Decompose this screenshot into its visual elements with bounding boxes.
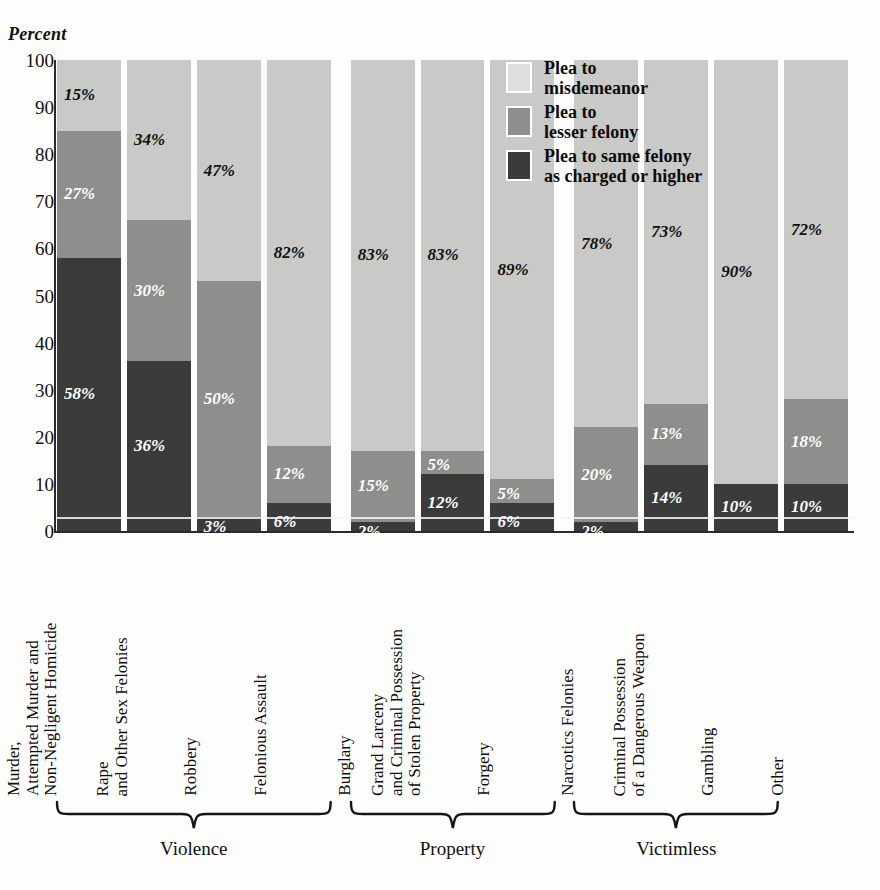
- legend-swatch-mis-icon: [506, 62, 532, 93]
- bar-2[interactable]: 47%50%3%: [197, 60, 261, 531]
- legend-label-les: Plea tolesser felony: [544, 102, 638, 142]
- category-label-2: Robbery: [182, 737, 201, 796]
- y-tick-100: 100: [26, 51, 55, 70]
- category-label-7: Narcotics Felonies: [560, 669, 579, 796]
- y-tick-90: 90: [35, 98, 54, 117]
- y-tick-20: 20: [35, 427, 54, 446]
- value-label-mis-5: 83%: [428, 246, 459, 263]
- segment-same-7: 2%: [574, 522, 638, 531]
- segment-same-2: 3%: [197, 517, 261, 531]
- y-tick-10: 10: [35, 474, 54, 493]
- brace-property: [349, 800, 557, 834]
- legend: Plea tomisdemeanorPlea tolesser felonyPl…: [506, 60, 756, 192]
- value-label-les-10: 18%: [791, 433, 822, 450]
- segment-les-7: 20%: [574, 427, 638, 521]
- y-tick-70: 70: [35, 192, 54, 211]
- value-label-les-4: 15%: [358, 477, 389, 494]
- legend-swatch-same-icon: [506, 150, 532, 181]
- brace-victimless: [572, 800, 780, 834]
- group-braces: ViolencePropertyVictimless: [57, 800, 854, 890]
- segment-les-5: 5%: [421, 451, 485, 475]
- segment-les-4: 15%: [351, 451, 415, 522]
- value-label-mis-9: 90%: [721, 263, 752, 280]
- value-label-same-5: 12%: [428, 494, 459, 511]
- legend-item-les[interactable]: Plea tolesser felony: [506, 104, 756, 148]
- value-label-same-10: 10%: [791, 498, 822, 515]
- segment-mis-1: 34%: [127, 60, 191, 220]
- value-label-mis-4: 83%: [358, 246, 389, 263]
- segment-les-0: 27%: [57, 131, 121, 258]
- y-tick-30: 30: [35, 380, 54, 399]
- y-tick-0: 0: [45, 522, 55, 541]
- value-label-mis-1: 34%: [134, 131, 165, 148]
- segment-mis-5: 83%: [421, 60, 485, 451]
- segment-same-9: 10%: [714, 484, 778, 531]
- y-tick-80: 80: [35, 145, 54, 164]
- value-label-les-7: 20%: [581, 466, 612, 483]
- value-label-mis-8: 73%: [651, 223, 682, 240]
- segment-mis-0: 15%: [57, 60, 121, 131]
- value-label-mis-7: 78%: [581, 235, 612, 252]
- y-tick-60: 60: [35, 239, 54, 258]
- legend-label-mis: Plea tomisdemeanor: [544, 58, 648, 98]
- bar-1[interactable]: 34%30%36%: [127, 60, 191, 531]
- segment-les-2: 50%: [197, 281, 261, 517]
- bar-3[interactable]: 82%12%6%: [267, 60, 331, 531]
- legend-item-mis[interactable]: Plea tomisdemeanor: [506, 60, 756, 104]
- category-label-5: Grand Larcenyand Criminal Possessionof S…: [368, 629, 424, 796]
- segment-same-10: 10%: [784, 484, 848, 531]
- category-label-3: Felonious Assault: [252, 675, 271, 796]
- value-label-mis-6: 89%: [497, 261, 528, 278]
- value-label-same-9: 10%: [721, 498, 752, 515]
- segment-mis-4: 83%: [351, 60, 415, 451]
- category-label-10: Other: [769, 757, 788, 796]
- legend-label-same: Plea to same felonyas charged or higher: [544, 146, 702, 186]
- y-tick-40: 40: [35, 333, 54, 352]
- value-label-les-2: 50%: [204, 390, 235, 407]
- value-label-les-8: 13%: [651, 425, 682, 442]
- value-label-same-1: 36%: [134, 437, 165, 454]
- value-label-same-4: 2%: [358, 523, 381, 540]
- bar-4[interactable]: 83%15%2%: [351, 60, 415, 531]
- value-label-les-1: 30%: [134, 282, 165, 299]
- segment-same-5: 12%: [421, 474, 485, 531]
- chart-canvas: Percent 1009080706050403020100 15%27%58%…: [0, 0, 880, 890]
- value-label-les-6: 5%: [497, 485, 520, 502]
- group-label-property: Property: [349, 838, 557, 860]
- y-axis-title: Percent: [8, 24, 66, 45]
- category-label-9: Gambling: [699, 728, 718, 796]
- y-tick-50: 50: [35, 286, 54, 305]
- value-label-same-2: 3%: [204, 518, 227, 535]
- group-label-violence: Violence: [55, 838, 333, 860]
- segment-les-1: 30%: [127, 220, 191, 361]
- value-label-same-3: 6%: [274, 513, 297, 530]
- segment-les-6: 5%: [490, 479, 554, 503]
- value-label-mis-10: 72%: [791, 221, 822, 238]
- value-label-same-8: 14%: [651, 489, 682, 506]
- segment-mis-10: 72%: [784, 60, 848, 399]
- value-label-mis-2: 47%: [204, 162, 235, 179]
- segment-same-0: 58%: [57, 258, 121, 531]
- segment-mis-2: 47%: [197, 60, 261, 281]
- legend-item-same[interactable]: Plea to same felonyas charged or higher: [506, 148, 756, 192]
- bar-5[interactable]: 83%5%12%: [421, 60, 485, 531]
- segment-les-10: 18%: [784, 399, 848, 484]
- value-label-same-0: 58%: [64, 385, 95, 402]
- y-axis-line: [54, 60, 56, 532]
- category-labels: Murder,Attempted Murder andNon-Negligent…: [57, 545, 854, 800]
- category-label-4: Burglary: [336, 736, 355, 796]
- x-axis-line: [54, 531, 854, 533]
- bar-0[interactable]: 15%27%58%: [57, 60, 121, 531]
- segment-same-4: 2%: [351, 522, 415, 531]
- brace-violence: [55, 800, 333, 834]
- bar-10[interactable]: 72%18%10%: [784, 60, 848, 531]
- segment-les-8: 13%: [644, 404, 708, 465]
- value-label-mis-3: 82%: [274, 244, 305, 261]
- segment-les-3: 12%: [267, 446, 331, 503]
- category-label-8: Criminal Possessionof a Dangerous Weapon: [611, 633, 648, 796]
- segment-same-8: 14%: [644, 465, 708, 531]
- category-label-6: Forgery: [476, 742, 495, 796]
- category-label-1: Rapeand Other Sex Felonies: [94, 637, 131, 796]
- value-label-same-7: 2%: [581, 523, 604, 540]
- three-percent-rule: [57, 517, 854, 519]
